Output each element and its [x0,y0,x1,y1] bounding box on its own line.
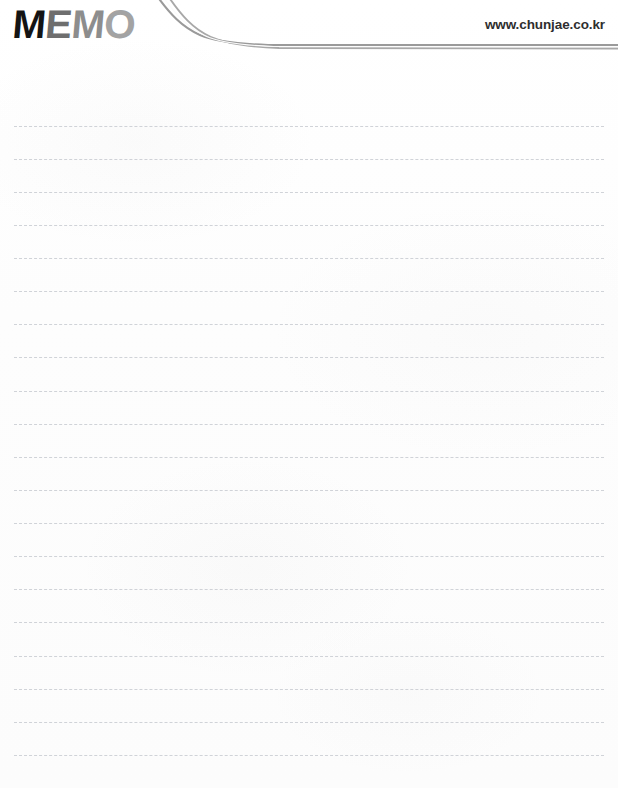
memo-line-4[interactable] [14,225,604,226]
memo-line-5[interactable] [14,258,604,259]
memo-line-16[interactable] [14,622,604,623]
memo-line-17[interactable] [14,656,604,657]
memo-line-3[interactable] [14,192,604,193]
memo-line-18[interactable] [14,689,604,690]
memo-line-9[interactable] [14,391,604,392]
memo-line-14[interactable] [14,556,604,557]
memo-line-10[interactable] [14,424,604,425]
memo-line-7[interactable] [14,324,604,325]
memo-line-2[interactable] [14,159,604,160]
memo-line-13[interactable] [14,523,604,524]
memo-line-12[interactable] [14,490,604,491]
memo-line-6[interactable] [14,291,604,292]
memo-line-19[interactable] [14,722,604,723]
ruled-lines-area[interactable] [0,0,618,788]
memo-line-11[interactable] [14,457,604,458]
memo-line-20[interactable] [14,755,604,756]
memo-page: MEMO www.chunjae.co.kr [0,0,618,788]
memo-line-15[interactable] [14,589,604,590]
memo-line-8[interactable] [14,357,604,358]
memo-line-1[interactable] [14,126,604,127]
